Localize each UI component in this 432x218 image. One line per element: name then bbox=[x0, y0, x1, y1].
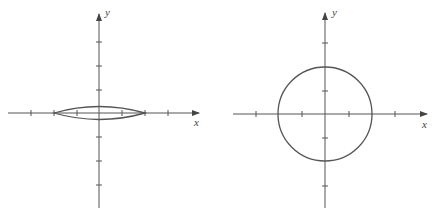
left-panel-ellipse-graph: x y bbox=[8, 6, 199, 208]
y-axis-label: y bbox=[331, 6, 337, 18]
right-panel-circle-graph: x y bbox=[233, 6, 427, 208]
figure: x y x y bbox=[0, 0, 432, 218]
x-axis-label: x bbox=[193, 116, 199, 128]
y-axis-label: y bbox=[104, 6, 110, 18]
x-axis-label: x bbox=[421, 118, 427, 130]
